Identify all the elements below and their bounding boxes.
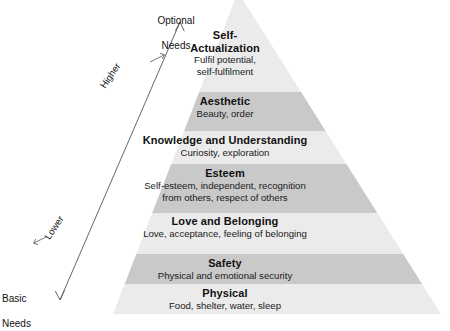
band-physical	[0, 284, 450, 316]
pyramid-bands	[0, 0, 450, 316]
band-knowledge	[0, 131, 450, 164]
direction-arrowheads	[34, 53, 165, 244]
band-self-actualization	[0, 0, 450, 92]
band-love-and-belonging	[0, 213, 450, 254]
band-esteem	[0, 164, 450, 213]
band-safety	[0, 254, 450, 284]
band-aesthetic	[0, 92, 450, 131]
